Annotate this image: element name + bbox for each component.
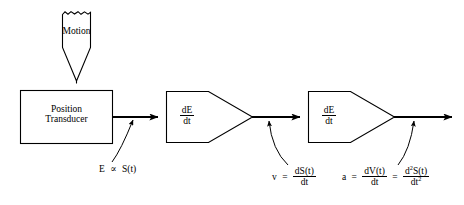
acceleration-fraction-1: dV(t) dt xyxy=(362,166,387,188)
annotation-velocity: v = dS(t) dt xyxy=(272,166,316,188)
velocity-fraction: dS(t) dt xyxy=(293,166,316,188)
motion-source-label: Motion xyxy=(59,26,94,36)
acceleration-denominator-2-sup: 2 xyxy=(418,175,421,182)
velocity-denominator: dt xyxy=(293,177,316,187)
signal-e-lhs: E xyxy=(99,164,105,174)
annotation-signal-e: E ∝ S(t) xyxy=(99,163,136,174)
velocity-lhs: v xyxy=(272,172,277,182)
differentiator-1-numerator: dE xyxy=(180,105,195,116)
acceleration-equals-2: = xyxy=(389,172,400,182)
velocity-equals: = xyxy=(279,172,290,182)
acceleration-equals-1: = xyxy=(349,172,360,182)
acceleration-denominator-1: dt xyxy=(362,177,387,187)
acceleration-lhs: a xyxy=(342,172,346,182)
differentiator-1-denominator: dt xyxy=(180,116,195,126)
differentiator-2-label: dE dt xyxy=(308,105,350,127)
leader-line-signal-e xyxy=(112,120,133,162)
signal-e-rhs: S(t) xyxy=(122,164,136,174)
leader-line-acceleration xyxy=(398,121,414,165)
transducer-label: Position Transducer xyxy=(20,104,113,125)
differentiator-2-numerator: dE xyxy=(322,105,337,116)
acceleration-numerator-1: dV(t) xyxy=(362,166,387,177)
differentiator-1-label: dE dt xyxy=(166,105,208,127)
acceleration-denominator-2: dt2 xyxy=(403,177,429,187)
acceleration-fraction-2: d2S(t) dt2 xyxy=(403,166,429,188)
transducer-label-line2: Transducer xyxy=(20,114,113,124)
proportional-icon: ∝ xyxy=(107,164,119,174)
differentiator-2-fraction: dE dt xyxy=(322,105,337,127)
transducer-label-line1: Position xyxy=(20,104,113,114)
acceleration-numerator-2: d2S(t) xyxy=(403,166,429,177)
leader-line-velocity xyxy=(269,121,288,165)
annotation-acceleration: a = dV(t) dt = d2S(t) dt2 xyxy=(342,166,429,188)
velocity-numerator: dS(t) xyxy=(293,166,316,177)
signal-chain-diagram: Motion Position Transducer dE dt dE dt E… xyxy=(0,0,464,205)
motion-source-shape xyxy=(63,12,91,81)
differentiator-2-denominator: dt xyxy=(322,116,337,126)
differentiator-1-fraction: dE dt xyxy=(180,105,195,127)
